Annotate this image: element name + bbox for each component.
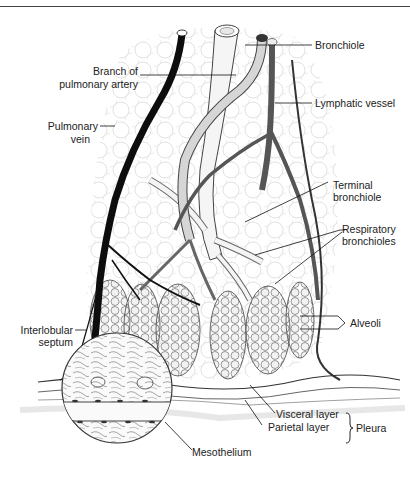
label-branch-artery-line2: pulmonary artery [42, 78, 138, 90]
label-interlobular-septum-line2: septum [5, 336, 73, 348]
label-pulmonary-vein-line2: vein [30, 133, 90, 145]
label-pleura: Pleura [356, 422, 386, 434]
label-parietal-layer: Parietal layer [268, 421, 329, 433]
label-lymphatic-vessel: Lymphatic vessel [315, 97, 395, 109]
label-respiratory-bronchioles-line2: bronchioles [342, 235, 396, 247]
label-visceral-layer: Visceral layer [276, 408, 339, 420]
label-terminal-bronchiole-line2: bronchiole [333, 191, 381, 203]
pleura-brace-icon [346, 413, 353, 443]
label-respiratory-bronchioles-line1: Respiratory [342, 223, 396, 235]
label-mesothelium: Mesothelium [192, 446, 252, 458]
label-terminal-bronchiole-line1: Terminal [333, 179, 373, 191]
label-branch-artery-line1: Branch of [52, 65, 138, 77]
label-alveoli: Alveoli [350, 317, 381, 329]
label-bronchiole: Bronchiole [315, 39, 365, 51]
label-pulmonary-vein-line1: Pulmonary [30, 120, 98, 132]
label-interlobular-septum-line1: Interlobular [5, 324, 73, 336]
